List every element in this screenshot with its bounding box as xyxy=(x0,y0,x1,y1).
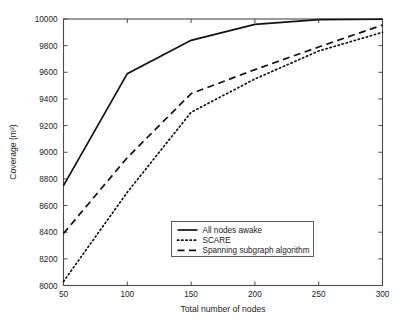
y-tick-label: 8200 xyxy=(39,255,58,264)
legend-label-2: Spanning subgraph algorithm xyxy=(203,246,310,255)
x-tick-label: 250 xyxy=(312,290,326,299)
y-tick-label: 9200 xyxy=(39,122,58,131)
y-axis-title: Coverage (m²) xyxy=(8,124,18,180)
x-tick-label: 100 xyxy=(120,290,134,299)
y-tick-label: 9400 xyxy=(39,95,58,104)
legend-label-0: All nodes awake xyxy=(203,226,263,235)
y-tick-label: 9600 xyxy=(39,68,58,77)
y-tick-label: 8400 xyxy=(39,228,58,237)
x-tick-label: 200 xyxy=(248,290,262,299)
x-axis-title: Total number of nodes xyxy=(180,304,265,314)
y-tick-label: 8600 xyxy=(39,202,58,211)
x-tick-label: 300 xyxy=(376,290,390,299)
y-tick-label: 8000 xyxy=(39,282,58,291)
x-tick-label: 50 xyxy=(59,290,69,299)
chart-background xyxy=(0,0,407,325)
chart-figure: 8000820084008600880090009200940096009800… xyxy=(0,0,407,325)
y-tick-label: 10000 xyxy=(35,15,58,24)
y-tick-label: 9800 xyxy=(39,42,58,51)
x-tick-label: 150 xyxy=(184,290,198,299)
y-tick-label: 8800 xyxy=(39,175,58,184)
legend-label-1: SCARE xyxy=(203,236,232,245)
y-tick-label: 9000 xyxy=(39,148,58,157)
chart-legend: All nodes awakeSCARESpanning subgraph al… xyxy=(172,222,314,257)
coverage-line-chart: 8000820084008600880090009200940096009800… xyxy=(0,0,407,325)
